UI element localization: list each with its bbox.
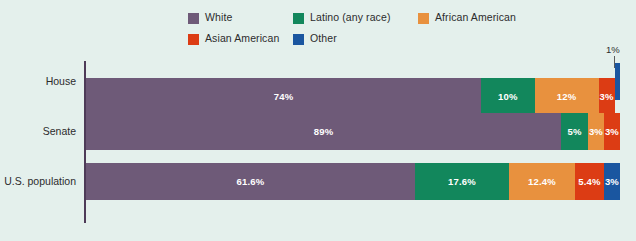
chart-legend: White Latino (any race) African American… [188, 10, 518, 52]
bar-segment-value: 3% [600, 91, 614, 102]
bar-segment[interactable]: 17.6% [415, 163, 509, 200]
bar-segment[interactable]: 61.6% [86, 163, 415, 200]
bar-segment[interactable]: 5.4% [575, 163, 604, 200]
stacked-bar-chart: White Latino (any race) African American… [0, 0, 636, 241]
legend-swatch-white-icon [188, 13, 199, 24]
bar-segment[interactable]: 5% [561, 113, 588, 150]
bar-segment-value: 61.6% [237, 176, 265, 187]
legend-item-other[interactable]: Other [293, 31, 418, 52]
legend-swatch-latino-icon [293, 13, 304, 24]
bar-segment-value: 17.6% [448, 176, 476, 187]
bar-segment-value: 89% [314, 126, 334, 137]
legend-label-other: Other [310, 31, 337, 46]
bar-segment[interactable]: 3% [604, 113, 620, 150]
bar-segment-value: 3% [589, 126, 603, 137]
bar-segment[interactable]: 12.4% [509, 163, 575, 200]
legend-swatch-other-icon [293, 34, 304, 45]
legend-label-asian-american: Asian American [205, 31, 279, 46]
bar-group: House74%10%12%3%Senate89%5%3%3%U.S. popu… [86, 63, 620, 200]
bar-row: Senate89%5%3%3% [86, 113, 620, 150]
bar-segment[interactable]: 10% [481, 78, 534, 115]
bar-segment-value: 10% [498, 91, 518, 102]
bar-segment-value: 12% [557, 91, 577, 102]
legend-item-african-american[interactable]: African American [418, 10, 518, 31]
bar-row: U.S. population61.6%17.6%12.4%5.4%3% [86, 163, 620, 200]
callout-label: 1% [606, 44, 620, 55]
bar-row-label: House [46, 63, 86, 100]
bar-row-label: Senate [43, 113, 86, 150]
bar-segment[interactable]: 3% [604, 163, 620, 200]
legend-swatch-asian-american-icon [188, 34, 199, 45]
bar-segment-value: 5.4% [578, 176, 600, 187]
legend-label-white: White [205, 10, 232, 25]
bar-segment[interactable] [615, 63, 620, 100]
bar-segment-value: 74% [274, 91, 294, 102]
bar-segment-value: 5% [568, 126, 582, 137]
legend-swatch-african-american-icon [418, 13, 429, 24]
bar-segment[interactable]: 74% [86, 78, 481, 115]
bar-segment-value: 3% [605, 126, 619, 137]
bar-segment[interactable]: 3% [588, 113, 604, 150]
bar-segment-value: 12.4% [528, 176, 556, 187]
bar-row: House74%10%12%3% [86, 63, 620, 100]
bar-segment[interactable]: 3% [599, 78, 615, 115]
legend-label-latino: Latino (any race) [310, 10, 391, 25]
bar-segment[interactable]: 12% [535, 78, 599, 115]
legend-row-1: White Latino (any race) African American [188, 10, 518, 31]
bar-segment[interactable]: 89% [86, 113, 561, 150]
legend-label-african-american: African American [435, 10, 516, 25]
legend-item-white[interactable]: White [188, 10, 293, 31]
legend-item-asian-american[interactable]: Asian American [188, 31, 293, 52]
bar-row-label: U.S. population [4, 163, 86, 200]
bar-segment-value: 3% [605, 176, 619, 187]
legend-item-latino[interactable]: Latino (any race) [293, 10, 418, 31]
legend-row-2: Asian American Other [188, 31, 518, 52]
